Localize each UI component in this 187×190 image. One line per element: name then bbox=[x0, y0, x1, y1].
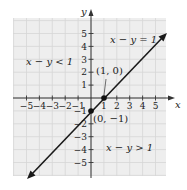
x-tick-label: −5 bbox=[20, 101, 34, 111]
region-upper-left-label: x − y < 1 bbox=[26, 56, 73, 67]
y-tick-label: −4 bbox=[74, 145, 88, 155]
y-tick-label: 2 bbox=[81, 67, 87, 77]
x-axis-arrow-icon bbox=[168, 96, 175, 101]
point-1-0-label: (1, 0) bbox=[96, 65, 123, 76]
x-tick-label: 2 bbox=[114, 101, 120, 111]
line-equation-label: x − y = 1 bbox=[110, 34, 157, 45]
x-tick-label: 3 bbox=[127, 101, 133, 111]
y-tick-label: −3 bbox=[74, 132, 88, 142]
x-tick-label: 4 bbox=[140, 101, 146, 111]
point-0-neg1-label: (0, −1) bbox=[93, 113, 128, 124]
inequality-graph: −5−4−3−2−112345 54321−1−2−3−4−5 x y (1, … bbox=[0, 0, 187, 190]
y-tick-label: 4 bbox=[81, 42, 87, 52]
y-tick-label: −5 bbox=[74, 158, 88, 168]
region-lower-right-label: x − y > 1 bbox=[106, 142, 153, 153]
y-tick-label: 1 bbox=[81, 80, 87, 90]
x-tick-label: −2 bbox=[59, 101, 72, 111]
x-tick-label: 5 bbox=[153, 101, 159, 111]
point-1-0 bbox=[101, 95, 107, 101]
x-tick-label: −3 bbox=[46, 101, 60, 111]
y-tick-label: 3 bbox=[81, 55, 87, 65]
y-tick-label: 5 bbox=[81, 29, 87, 39]
y-axis-label: y bbox=[80, 6, 87, 17]
y-tick-label: −1 bbox=[74, 106, 87, 116]
x-tick-label: −4 bbox=[33, 101, 47, 111]
x-axis-label: x bbox=[175, 99, 181, 110]
x-tick-label: 1 bbox=[101, 101, 107, 111]
y-axis-arrow-icon bbox=[89, 9, 94, 16]
